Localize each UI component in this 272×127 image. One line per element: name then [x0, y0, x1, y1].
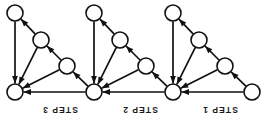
graph-node [165, 84, 181, 100]
graph-node [112, 32, 128, 48]
arrow-head-icon [12, 76, 18, 84]
step-label-step-2: STEP 2 [110, 104, 170, 116]
graph-node [33, 32, 49, 48]
arrow-head-icon [91, 76, 97, 84]
graph-node [86, 5, 102, 21]
arrow-head-icon [98, 76, 104, 84]
graph-node [244, 84, 260, 100]
graph-node [191, 32, 207, 48]
arrow-head-icon [177, 76, 183, 84]
arrow-head-icon [170, 76, 176, 84]
arrow-head-icon [102, 82, 110, 88]
graph-node [59, 58, 75, 74]
graph-node [217, 58, 233, 74]
arrow-head-icon [181, 82, 189, 88]
graph-node [7, 5, 23, 21]
graph-node [165, 5, 181, 21]
arrow-head-icon [182, 89, 190, 95]
arrow-head-icon [103, 89, 111, 95]
edges-layer [12, 19, 246, 95]
arrow-head-icon [23, 82, 31, 88]
arrow-head-icon [19, 76, 25, 84]
graph-node [138, 58, 154, 74]
arrow-head-icon [24, 89, 32, 95]
step-graph-figure: STEP 3STEP 2STEP 1 [0, 0, 272, 127]
step-label-step-3: STEP 3 [30, 104, 90, 116]
step-label-step-1: STEP 1 [190, 104, 250, 116]
graph-node [86, 84, 102, 100]
graph-node [7, 84, 23, 100]
